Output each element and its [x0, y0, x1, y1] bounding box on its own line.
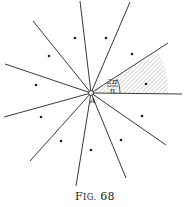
- sector-dot: [48, 55, 51, 58]
- center-point: [89, 91, 94, 96]
- sector-dot: [141, 115, 144, 118]
- figure-caption: FIG. 68: [0, 190, 190, 203]
- sector-dot: [40, 116, 43, 119]
- sector-dot: [105, 37, 108, 40]
- caption-prefix: F: [75, 190, 83, 203]
- ray-line: [91, 93, 182, 94]
- ray-line: [91, 93, 166, 145]
- caption-smallcaps: IG.: [83, 192, 96, 202]
- sector-dot: [145, 83, 148, 86]
- ray-line: [33, 21, 91, 93]
- ray-line: [91, 93, 126, 178]
- sector-dot: [90, 149, 93, 152]
- sector-dot: [120, 139, 123, 142]
- angle-label-numerator: 2π: [106, 77, 118, 86]
- ray-line: [4, 93, 91, 117]
- sector-diagram: 2π n A: [0, 0, 190, 190]
- center-label: A: [89, 96, 96, 105]
- shaded-sector: [91, 52, 168, 93]
- angle-label-denominator: n: [110, 86, 115, 95]
- figure-68: 2π n A FIG. 68: [0, 0, 190, 207]
- caption-number: 68: [100, 190, 115, 203]
- sector-dot: [131, 53, 134, 56]
- sector-dot: [74, 37, 77, 40]
- ray-line: [80, 1, 91, 93]
- sector-dot: [60, 140, 63, 143]
- ray-line: [5, 64, 91, 93]
- sector-dot: [35, 84, 38, 87]
